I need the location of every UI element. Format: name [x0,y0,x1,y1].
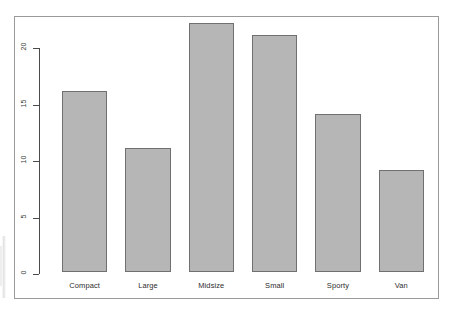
x-axis-label-compact: Compact [53,281,116,290]
x-axis-label-large: Large [116,281,179,290]
x-axis-label-midsize: Midsize [180,281,243,290]
y-axis-tick-label: 10 [20,152,27,168]
y-axis-tick-label: 20 [20,39,27,55]
y-axis-tick-mark [33,274,39,275]
bar-sporty [315,114,361,272]
y-axis-line [39,48,40,274]
scan-edge-artifact [2,236,6,298]
x-axis-label-small: Small [243,281,306,290]
y-axis-tick-label: 5 [20,208,27,224]
bar-small [252,35,298,272]
y-axis-tick-mark [33,105,39,106]
x-axis-label-sporty: Sporty [306,281,369,290]
y-axis-tick-label: 0 [20,265,27,281]
x-axis-label-van: Van [370,281,433,290]
bar-van [379,170,425,272]
y-axis-tick-mark [33,161,39,162]
y-axis-tick-mark [33,218,39,219]
bar-large [125,148,171,272]
plot-frame: 05101520 CompactLargeMidsizeSmallSportyV… [14,16,439,299]
bar-compact [62,91,108,272]
scan-edge-artifact-secondary [0,246,2,286]
y-axis-tick-mark [33,48,39,49]
plot-area: 05101520 CompactLargeMidsizeSmallSportyV… [15,17,438,298]
y-axis-tick-label: 15 [20,95,27,111]
bar-midsize [189,23,235,272]
